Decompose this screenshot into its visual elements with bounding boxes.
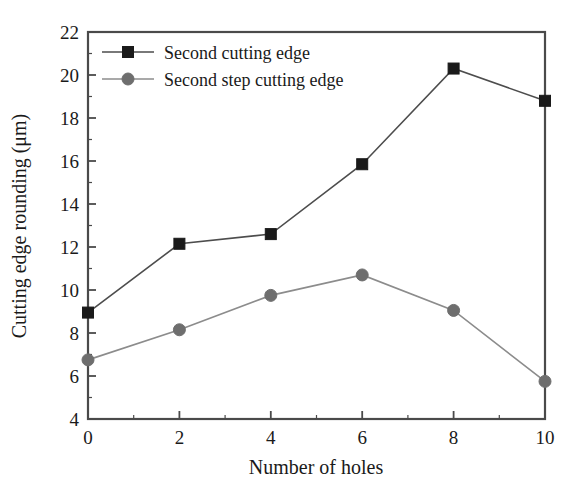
- data-point-marker: [174, 238, 185, 249]
- y-tick-label: 16: [60, 151, 79, 172]
- x-tick-label: 6: [357, 427, 367, 448]
- x-tick-label: 10: [536, 427, 555, 448]
- data-point-marker: [173, 324, 185, 336]
- data-point-marker: [539, 375, 551, 387]
- y-tick-label: 12: [60, 237, 79, 258]
- data-point-marker: [540, 95, 551, 106]
- legend-label: Second cutting edge: [164, 43, 310, 63]
- y-tick-label: 6: [70, 366, 80, 387]
- data-point-marker: [448, 304, 460, 316]
- x-tick-label: 4: [266, 427, 276, 448]
- data-point-marker: [448, 63, 459, 74]
- data-point-marker: [83, 307, 94, 318]
- data-point-marker: [265, 229, 276, 240]
- y-tick-label: 4: [70, 409, 80, 430]
- line-chart: 0246810 46810121416182022 Second cutting…: [0, 0, 577, 494]
- y-tick-label: 20: [60, 65, 79, 86]
- legend-label: Second step cutting edge: [164, 70, 343, 90]
- y-tick-label: 22: [60, 22, 79, 43]
- x-tick-label: 8: [449, 427, 459, 448]
- legend-marker: [123, 47, 134, 58]
- y-tick-label: 18: [60, 108, 79, 129]
- data-point-marker: [357, 159, 368, 170]
- x-tick-label: 0: [83, 427, 93, 448]
- y-tick-label: 14: [60, 194, 80, 215]
- data-point-marker: [356, 269, 368, 281]
- y-axis-title: Cutting edge rounding (μm): [8, 114, 31, 339]
- y-tick-label: 8: [70, 323, 80, 344]
- data-point-marker: [82, 354, 94, 366]
- legend-marker: [122, 73, 134, 85]
- chart-figure: 0246810 46810121416182022 Second cutting…: [0, 0, 577, 494]
- x-axis-title: Number of holes: [249, 456, 384, 478]
- x-tick-label: 2: [175, 427, 185, 448]
- y-tick-label: 10: [60, 280, 79, 301]
- data-point-marker: [265, 289, 277, 301]
